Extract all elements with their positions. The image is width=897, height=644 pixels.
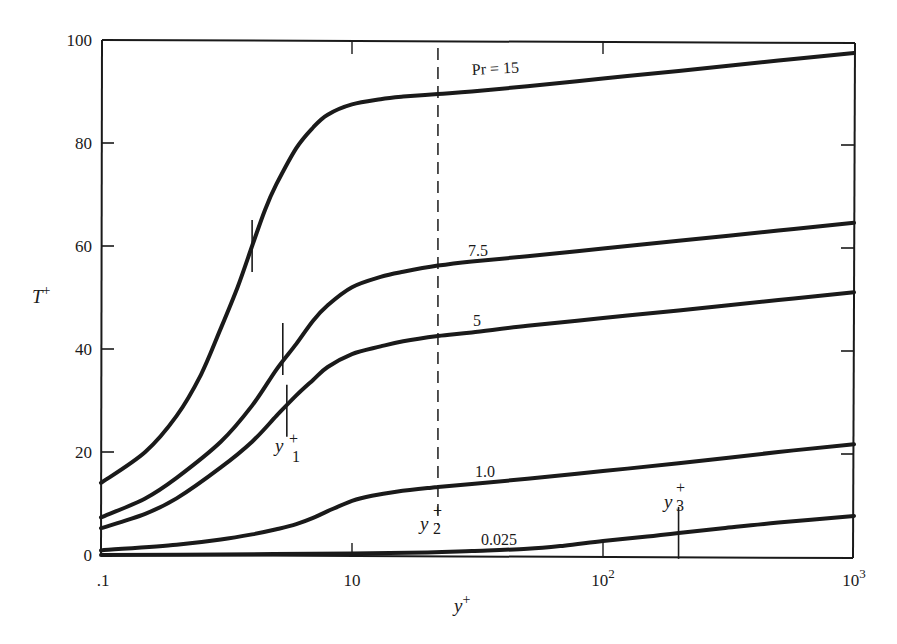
x-tick-label: 103 xyxy=(842,566,866,590)
y-tick-label: 0 xyxy=(84,546,93,565)
x-tick-label: .1 xyxy=(97,571,110,590)
plot-frame xyxy=(101,40,855,558)
x-axis-title: y+ xyxy=(452,592,470,616)
x-axis-ticks: .110102103 xyxy=(97,41,866,590)
y1-plus-sub: 1 xyxy=(292,448,300,465)
y2-plus-sup: + xyxy=(433,502,442,519)
x-tick-label: 10 xyxy=(344,571,361,590)
y-tick-label: 40 xyxy=(75,340,92,359)
y1-plus-label: y xyxy=(273,435,284,456)
y-tick-label: 60 xyxy=(75,237,92,256)
y3-plus-sub: 3 xyxy=(676,497,684,514)
y1-plus-sup: + xyxy=(289,430,298,447)
y-tick-label: 100 xyxy=(67,31,93,50)
curve-label-pr15: Pr = 15 xyxy=(471,59,519,78)
y3-plus-label: y xyxy=(662,491,673,512)
y2-plus-sub: 2 xyxy=(433,520,441,537)
curve-label-pr0-025: 0.025 xyxy=(481,531,517,548)
curve-label-pr1: 1.0 xyxy=(475,463,495,480)
y-axis-title: T+ xyxy=(32,283,51,307)
chart: 020406080100 .110102103 Pr = 15 7.5 5 1.… xyxy=(0,0,897,644)
x-tick-label: 102 xyxy=(591,566,615,590)
curve-pr-15 xyxy=(101,53,854,483)
region-markers xyxy=(252,220,678,559)
y-tick-label: 20 xyxy=(75,443,92,462)
y3-plus-sup: + xyxy=(676,479,685,496)
curve-label-pr7-5: 7.5 xyxy=(468,242,488,259)
curve-pr-0-025 xyxy=(101,516,854,555)
y2-plus-label: y xyxy=(418,513,429,534)
curve-label-pr5: 5 xyxy=(473,312,481,329)
curve-pr-1-0 xyxy=(101,444,854,550)
y-tick-label: 80 xyxy=(75,134,92,153)
